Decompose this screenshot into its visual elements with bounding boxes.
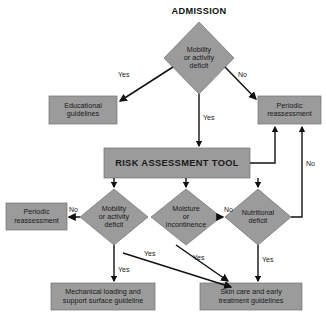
node-risk-assessment-tool[interactable] xyxy=(104,148,250,178)
node-mobility-deficit-bottom[interactable] xyxy=(80,189,148,245)
node-educational-guidelines[interactable] xyxy=(49,96,117,124)
edge-no-loop-periodic-top xyxy=(291,127,302,217)
node-periodic-reassessment-top[interactable] xyxy=(258,96,321,124)
node-mobility-deficit-top[interactable] xyxy=(164,22,234,94)
node-nutritional-deficit[interactable] xyxy=(225,189,291,245)
edge-yes-skincare-from-mobility xyxy=(123,253,231,287)
edge-tool-to-periodic-top xyxy=(250,127,275,163)
node-skin-care[interactable] xyxy=(200,283,302,310)
node-mechanical-loading[interactable] xyxy=(51,283,155,310)
node-moisture-incontinence[interactable] xyxy=(151,189,221,245)
node-periodic-reassessment-left[interactable] xyxy=(6,203,67,230)
flowchart-canvas: ADMISSION Mobility or activity deficit E… xyxy=(0,0,326,323)
edge-yes-skincare-from-moisture xyxy=(176,245,228,281)
